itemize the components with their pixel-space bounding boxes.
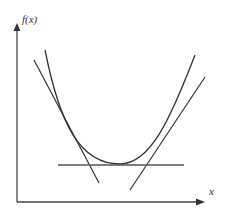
- y-axis-arrowhead-icon: [14, 23, 21, 31]
- convex-curve: [45, 50, 195, 164]
- convex-function-tangent-diagram: [0, 0, 225, 213]
- y-axis-label: f(x): [22, 14, 37, 25]
- x-axis-arrowhead-icon: [196, 199, 205, 206]
- right-tangent-line: [130, 77, 205, 190]
- x-axis-label: x: [209, 186, 214, 197]
